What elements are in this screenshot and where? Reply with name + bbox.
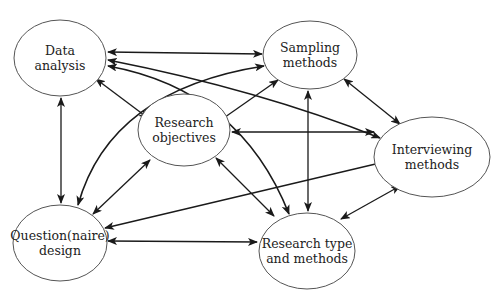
label-line: design	[10, 243, 109, 258]
edge-questionnaire-research-type	[108, 241, 257, 242]
label-line: Interviewing	[392, 142, 473, 157]
label-line: objectives	[152, 130, 216, 145]
label-line: and methods	[262, 251, 353, 266]
label-line: Research type	[262, 236, 353, 251]
label-line: Data	[35, 43, 86, 58]
edge-interviewing-research-type	[341, 186, 400, 219]
label-line: Sampling	[280, 40, 340, 55]
label-line: Research	[152, 115, 216, 130]
label-line: Question(naire)	[10, 228, 109, 243]
label-data-analysis: Data analysis	[35, 43, 86, 73]
label-questionnaire-design: Question(naire) design	[10, 228, 109, 258]
label-research-objectives: Research objectives	[152, 115, 216, 145]
label-line: methods	[280, 55, 340, 70]
edge-sampling-objectives	[218, 80, 278, 122]
edge-objectives-questionnaire	[93, 160, 150, 214]
edge-sampling-interviewing	[344, 79, 400, 124]
label-research-type-methods: Research type and methods	[262, 236, 353, 266]
label-interviewing-methods: Interviewing methods	[392, 142, 473, 172]
label-sampling-methods: Sampling methods	[280, 40, 340, 70]
label-line: analysis	[35, 58, 86, 73]
edge-data-analysis-sampling	[108, 52, 262, 54]
label-line: methods	[392, 157, 473, 172]
diagram-canvas: Data analysis Sampling methods Research …	[0, 0, 494, 290]
